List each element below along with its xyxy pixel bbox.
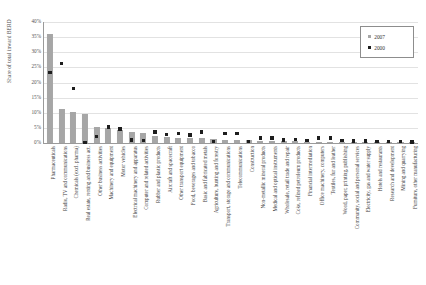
marker-2000	[352, 139, 355, 142]
chart-column	[196, 22, 208, 143]
bar-2007	[82, 114, 88, 143]
x-axis-tick-label: Wood, paper, printing, publishing	[343, 146, 348, 214]
y-axis-tick-label: 40%	[31, 19, 41, 24]
marker-2000	[223, 132, 226, 135]
bar-2007	[164, 137, 170, 143]
x-axis-tick-label: Pharmaceuticals	[51, 146, 56, 179]
marker-2000	[387, 140, 390, 143]
x-axis-tick-label: Basic and fabricated metals	[203, 146, 208, 202]
marker-2000	[399, 140, 402, 143]
marker-2000	[235, 132, 238, 135]
x-axis-tick-label: Other business activities	[98, 146, 103, 196]
marker-2000	[83, 141, 86, 144]
bar-2007	[70, 112, 76, 143]
x-axis-tick-label: Telecommunications	[238, 146, 243, 188]
y-axis-tick-label: 15%	[31, 95, 41, 100]
chart-column	[266, 22, 278, 143]
marker-2000	[60, 62, 63, 65]
x-axis-tick-label: Machinery and equipment	[109, 146, 114, 199]
bar-2007	[316, 142, 322, 144]
marker-2000	[317, 136, 320, 139]
chart-column	[313, 22, 325, 143]
x-axis-tick-label: Motor vehicles	[121, 146, 126, 177]
marker-2000	[247, 140, 250, 143]
x-axis-tick-label: Textiles, fur and leather	[331, 146, 336, 194]
marker-2000	[165, 133, 168, 136]
chart-column	[161, 22, 173, 143]
chart-column	[278, 22, 290, 143]
x-axis-tick-label: Real estate, renting and business act.	[86, 146, 91, 221]
x-axis-tick-label: Furniture, other manufacturing	[413, 146, 418, 209]
marker-2000	[294, 138, 297, 141]
x-axis-tick-label: Office machinery, computers	[320, 146, 325, 205]
chart-column	[219, 22, 231, 143]
x-axis-tick-label: Electricity, gas and water supply	[366, 146, 371, 212]
chart-column	[325, 22, 337, 143]
x-axis-tick-label: Other transport equipment	[179, 146, 184, 200]
chart-column	[79, 22, 91, 143]
y-axis-tick-label: 10%	[31, 110, 41, 115]
chart-column	[114, 22, 126, 143]
marker-2000	[410, 140, 413, 143]
x-axis-tick-label: Community, social and personal services	[355, 146, 360, 229]
y-axis-tick-label: 35%	[31, 35, 41, 40]
marker-2000	[364, 139, 367, 142]
bar-2007	[292, 141, 298, 143]
chart-column	[348, 22, 360, 143]
marker-2000	[259, 136, 262, 139]
x-axis-tick-label: Hotels and restaurants	[378, 146, 383, 191]
marker-2000	[270, 136, 273, 139]
y-axis-tick-label: 25%	[31, 65, 41, 70]
x-axis-tick-label: Research and development	[390, 146, 395, 201]
x-axis-tick-label: Rubber and plastic products	[156, 146, 161, 203]
marker-2000	[130, 138, 133, 141]
legend-label: 2007	[374, 34, 385, 40]
chart-column	[231, 22, 243, 143]
y-axis-title: Share of total inward BERD	[6, 19, 12, 83]
marker-2000	[95, 135, 98, 138]
bar-2007	[327, 142, 333, 143]
chart-column	[336, 22, 348, 143]
marker-2000	[142, 139, 145, 142]
marker-2000	[305, 139, 308, 142]
y-axis-tick-label: 0%	[34, 140, 41, 145]
chart-column	[44, 22, 56, 143]
chart-column	[173, 22, 185, 143]
chart-column	[56, 22, 68, 143]
marker-2000	[212, 140, 215, 143]
marker-2000	[48, 71, 51, 74]
marker-2000	[282, 138, 285, 141]
legend-swatch-icon	[368, 46, 371, 49]
bar-2007	[152, 136, 158, 143]
marker-2000	[200, 130, 203, 133]
bar-2007	[187, 138, 193, 143]
chart-column	[243, 22, 255, 143]
bar-2007	[59, 109, 65, 143]
bar-2007	[222, 140, 228, 143]
y-axis-tick-label: 5%	[34, 125, 41, 130]
chart-container: Share of total inward BERD 40%35%30%25%2…	[0, 0, 426, 285]
chart-column	[149, 22, 161, 143]
x-axis-labels: PharmaceuticalsRadio, TV and communicati…	[43, 146, 418, 285]
bar-2007	[175, 138, 181, 143]
x-axis-tick-label: Aircraft and spacecraft	[168, 146, 173, 193]
chart-column	[208, 22, 220, 143]
chart-column	[91, 22, 103, 143]
chart-column	[67, 22, 79, 143]
marker-2000	[340, 139, 343, 142]
chart-column	[126, 22, 138, 143]
bar-2007	[269, 141, 275, 143]
y-axis-tick-label: 20%	[31, 80, 41, 85]
marker-2000	[329, 136, 332, 139]
chart-column	[254, 22, 266, 143]
chart-legend: 2007 2000	[360, 26, 414, 58]
bar-2007	[47, 34, 53, 144]
bar-2007	[199, 138, 205, 143]
x-axis-tick-label: Transport, storage and communications	[226, 146, 231, 226]
x-axis-tick-label: Construction	[250, 146, 255, 172]
marker-2000	[375, 140, 378, 143]
chart-column	[301, 22, 313, 143]
bar-2007	[105, 128, 111, 143]
x-axis-tick-label: Non-metallic mineral products	[261, 146, 266, 209]
legend-swatch-icon	[368, 35, 371, 38]
